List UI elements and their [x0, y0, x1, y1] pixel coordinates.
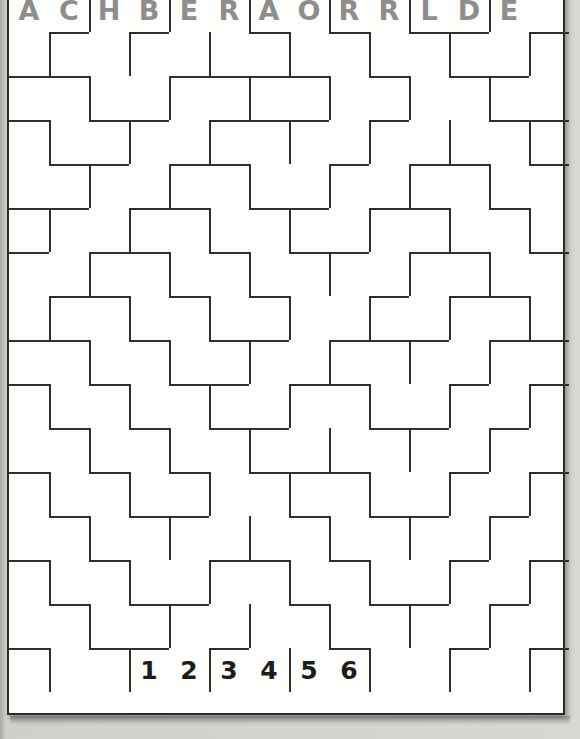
wall-vertical — [169, 164, 171, 208]
wall-vertical — [409, 604, 411, 648]
wall-vertical — [289, 472, 291, 516]
wall-vertical — [449, 296, 451, 340]
wall-horizontal — [249, 32, 289, 34]
wall-horizontal — [49, 164, 89, 166]
footer-number-2[interactable]: 2 — [169, 648, 209, 692]
wall-horizontal — [369, 296, 409, 298]
header-letter-glyph: A — [259, 0, 280, 24]
footer-number-glyph: 2 — [180, 658, 197, 683]
header-letter-glyph: H — [98, 0, 121, 24]
wall-vertical — [289, 384, 291, 428]
wall-horizontal — [169, 76, 209, 78]
wall-horizontal — [9, 472, 49, 474]
wall-horizontal — [89, 252, 129, 254]
header-letter-r[interactable]: R — [329, 0, 369, 32]
wall-vertical — [209, 208, 211, 252]
wall-vertical — [409, 164, 411, 208]
wall-vertical — [49, 648, 51, 692]
wall-vertical — [529, 384, 531, 428]
wall-horizontal — [249, 472, 289, 474]
wall-vertical — [129, 32, 131, 76]
wall-horizontal — [209, 120, 249, 122]
wall-horizontal — [289, 472, 329, 474]
wall-horizontal — [489, 120, 529, 122]
wall-vertical — [49, 296, 51, 340]
header-letter-r[interactable]: R — [209, 0, 249, 32]
wall-horizontal — [89, 164, 129, 166]
wall-horizontal — [129, 604, 169, 606]
wall-vertical — [369, 560, 371, 604]
frame-drop-shadow — [10, 716, 570, 725]
wall-layer — [9, 0, 563, 713]
wall-horizontal — [89, 384, 129, 386]
wall-horizontal — [169, 604, 209, 606]
wall-horizontal — [169, 384, 209, 386]
wall-vertical — [129, 120, 131, 164]
footer-number-6[interactable]: 6 — [329, 648, 369, 692]
header-letter-h[interactable]: H — [89, 0, 129, 32]
wall-horizontal — [249, 340, 289, 342]
footer-number-1[interactable]: 1 — [129, 648, 169, 692]
wall-horizontal — [449, 472, 489, 474]
header-letter-glyph: L — [420, 0, 437, 24]
wall-vertical — [89, 604, 91, 648]
wall-horizontal — [409, 604, 449, 606]
wall-horizontal — [249, 296, 289, 298]
wall-vertical — [329, 340, 331, 384]
wall-vertical — [529, 560, 531, 604]
wall-vertical — [169, 428, 171, 472]
wall-vertical — [49, 208, 51, 252]
wall-vertical — [409, 340, 411, 384]
wall-vertical — [489, 164, 491, 208]
header-letter-a[interactable]: A — [249, 0, 289, 32]
wall-vertical — [329, 76, 331, 120]
wall-vertical — [409, 516, 411, 560]
wall-horizontal — [49, 604, 89, 606]
header-letter-b[interactable]: B — [129, 0, 169, 32]
wall-horizontal — [209, 428, 249, 430]
header-letter-d[interactable]: D — [449, 0, 489, 32]
wall-vertical — [169, 252, 171, 296]
header-letter-l[interactable]: L — [409, 0, 449, 32]
footer-number-glyph: 6 — [340, 658, 357, 683]
footer-number-5[interactable]: 5 — [289, 648, 329, 692]
wall-horizontal — [49, 208, 89, 210]
wall-horizontal — [129, 252, 169, 254]
wall-vertical — [369, 120, 371, 164]
footer-number-glyph: 5 — [300, 658, 317, 683]
wall-vertical — [449, 472, 451, 516]
header-letter-glyph: D — [458, 0, 480, 24]
wall-horizontal — [169, 472, 209, 474]
header-letter-glyph: O — [298, 0, 321, 24]
wall-vertical — [169, 604, 171, 648]
header-letter-e[interactable]: E — [169, 0, 209, 32]
header-letter-r[interactable]: R — [369, 0, 409, 32]
wall-horizontal — [529, 120, 569, 122]
header-letter-o[interactable]: O — [289, 0, 329, 32]
wall-vertical — [529, 472, 531, 516]
wall-horizontal — [249, 208, 289, 210]
wall-horizontal — [89, 472, 129, 474]
wall-horizontal — [289, 516, 329, 518]
wall-vertical — [369, 296, 371, 340]
wall-horizontal — [129, 120, 169, 122]
footer-number-3[interactable]: 3 — [209, 648, 249, 692]
wall-horizontal — [329, 560, 369, 562]
puzzle-grid-frame[interactable]: ACHBERAORRLDE123456 — [7, 0, 565, 715]
wall-horizontal — [369, 208, 409, 210]
footer-number-4[interactable]: 4 — [249, 648, 289, 692]
wall-vertical — [449, 560, 451, 604]
wall-vertical — [409, 76, 411, 120]
wall-vertical — [369, 208, 371, 252]
wall-vertical — [329, 428, 331, 472]
header-letter-c[interactable]: C — [49, 0, 89, 32]
header-letter-e[interactable]: E — [489, 0, 529, 32]
wall-horizontal — [409, 164, 449, 166]
wall-horizontal — [329, 252, 369, 254]
header-letter-a[interactable]: A — [9, 0, 49, 32]
wall-horizontal — [449, 164, 489, 166]
wall-vertical — [449, 648, 451, 692]
wall-horizontal — [9, 76, 49, 78]
wall-vertical — [89, 340, 91, 384]
wall-horizontal — [49, 428, 89, 430]
